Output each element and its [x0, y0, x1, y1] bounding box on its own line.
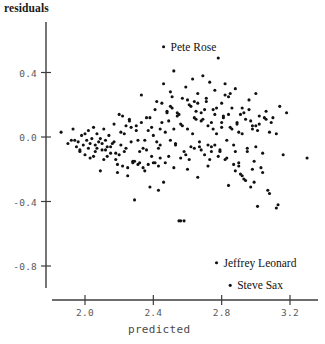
data-point	[138, 150, 141, 153]
data-point	[148, 185, 151, 188]
data-point	[183, 150, 186, 153]
data-point	[60, 131, 63, 134]
data-point	[131, 161, 134, 164]
data-point	[78, 148, 81, 151]
data-point	[73, 139, 76, 142]
data-point	[119, 144, 122, 147]
data-point	[174, 142, 177, 145]
data-point	[247, 108, 250, 111]
data-point	[164, 131, 167, 134]
data-point	[224, 158, 227, 161]
annotation-marker	[229, 284, 232, 287]
data-point	[104, 139, 107, 142]
data-point	[171, 95, 174, 98]
data-point	[210, 145, 213, 148]
data-point	[142, 166, 145, 169]
y-tick-label: -0.8	[13, 261, 37, 272]
data-point	[160, 121, 163, 124]
data-point	[241, 106, 244, 109]
data-point	[222, 114, 225, 117]
data-point	[157, 189, 160, 192]
data-point	[159, 156, 162, 159]
data-point	[85, 139, 88, 142]
data-point	[135, 124, 138, 127]
data-point	[140, 94, 143, 97]
x-tick-label: 3.2	[281, 307, 299, 318]
data-point	[246, 147, 249, 150]
data-point	[213, 113, 216, 116]
data-point	[212, 127, 215, 130]
data-point	[278, 105, 281, 108]
data-point	[179, 156, 182, 159]
data-point	[169, 105, 172, 108]
data-point	[126, 174, 129, 177]
data-point	[99, 169, 102, 172]
data-point	[220, 121, 223, 124]
data-point	[205, 100, 208, 103]
data-point	[107, 134, 110, 137]
data-points-group	[60, 56, 309, 222]
x-tick-label: 2.4	[144, 307, 162, 318]
data-point	[224, 82, 227, 85]
data-point	[143, 169, 146, 172]
data-point	[77, 140, 80, 143]
data-point	[99, 137, 102, 140]
data-point	[276, 203, 279, 206]
data-point	[71, 127, 74, 130]
data-point	[112, 140, 115, 143]
data-point	[94, 150, 97, 153]
data-point	[118, 113, 121, 116]
annotation-label: Jeffrey Leonard	[224, 257, 297, 269]
data-point	[275, 206, 278, 209]
data-point	[225, 139, 228, 142]
data-point	[162, 181, 165, 184]
data-point	[179, 219, 182, 222]
data-point	[157, 164, 160, 167]
data-point	[118, 153, 121, 156]
data-point	[246, 150, 249, 153]
data-point	[112, 123, 115, 126]
data-point	[227, 113, 230, 116]
data-point	[92, 155, 95, 158]
data-point	[258, 123, 261, 126]
data-point	[253, 181, 256, 184]
data-point	[217, 155, 220, 158]
data-point	[186, 168, 189, 171]
data-point	[194, 110, 197, 113]
data-point	[145, 148, 148, 151]
data-point	[241, 132, 244, 135]
data-point	[133, 198, 136, 201]
y-tick-label: -0.4	[13, 196, 37, 207]
data-point	[208, 81, 211, 84]
data-point	[188, 103, 191, 106]
data-point	[181, 97, 184, 100]
data-point	[126, 166, 129, 169]
data-point	[167, 119, 170, 122]
data-point	[183, 219, 186, 222]
data-point	[109, 152, 112, 155]
data-point	[123, 132, 126, 135]
x-axis-title: predicted	[128, 323, 190, 336]
data-point	[254, 92, 257, 95]
data-point	[208, 158, 211, 161]
data-point	[142, 147, 145, 150]
data-point	[205, 97, 208, 100]
y-tick-label: 0.0	[19, 132, 37, 143]
data-point	[159, 144, 162, 147]
data-point	[306, 156, 309, 159]
data-point	[270, 121, 273, 124]
data-point	[155, 100, 158, 103]
data-point	[189, 145, 192, 148]
data-point	[169, 139, 172, 142]
data-point	[121, 114, 124, 117]
data-point	[66, 142, 69, 145]
data-point	[242, 111, 245, 114]
data-point	[230, 106, 233, 109]
data-point	[203, 153, 206, 156]
y-axis-title: residuals	[4, 2, 49, 14]
x-tick-label: 2.0	[76, 307, 94, 318]
data-point	[167, 155, 170, 158]
data-point	[94, 144, 97, 147]
data-point	[234, 87, 237, 90]
data-point	[261, 152, 264, 155]
